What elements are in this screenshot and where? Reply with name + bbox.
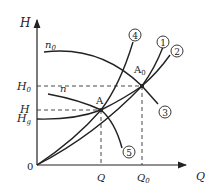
pump-characteristic-diagram: H Q 0 H0 H Hg Q Q0 A A0 n0 n 1 2 3 4 5 [0, 0, 209, 190]
n0-label: n0 [45, 39, 56, 52]
point-a-label: A [95, 95, 104, 106]
y-axis-label: H [19, 16, 31, 30]
origin-label: 0 [27, 161, 33, 172]
circle-label-1: 1 [157, 36, 169, 48]
q-label: Q [97, 172, 105, 183]
point-a0-label: A0 [133, 64, 146, 77]
svg-text:4: 4 [132, 31, 138, 41]
curve-1 [37, 47, 163, 165]
circle-label-2: 2 [171, 45, 183, 57]
point-a [99, 108, 103, 112]
point-a0 [140, 84, 144, 88]
circle-label-3: 3 [159, 106, 171, 118]
circle-label-4: 4 [129, 29, 141, 41]
curve-system-hg [37, 55, 170, 119]
svg-text:5: 5 [126, 148, 132, 158]
svg-text:3: 3 [162, 108, 168, 118]
q0-label: Q0 [137, 172, 150, 185]
x-axis-label: Q [196, 170, 205, 183]
n-label: n [60, 83, 66, 94]
circle-label-5: 5 [123, 146, 135, 158]
svg-text:2: 2 [174, 47, 180, 57]
curve-n [48, 94, 122, 148]
h0-label: H0 [16, 80, 32, 94]
svg-text:1: 1 [160, 38, 166, 48]
